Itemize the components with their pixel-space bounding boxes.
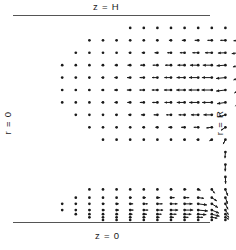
vector-arrowhead (224, 181, 227, 184)
vector-arrow (155, 51, 159, 54)
vector-base-dot (88, 203, 91, 206)
vector-arrow (210, 216, 217, 219)
axis-label-z-0: z = 0 (95, 231, 120, 241)
vector-arrowhead (187, 216, 189, 218)
vector-arrow (224, 163, 227, 171)
vector-arrowhead (117, 209, 119, 211)
vector-arrow (88, 64, 91, 67)
vector-arrow (129, 51, 132, 54)
vector-arrowhead (165, 64, 167, 66)
vector-arrow (177, 101, 186, 104)
vector-arrow (189, 76, 200, 79)
vector-arrow (74, 101, 77, 104)
vector-arrowhead (127, 89, 129, 91)
vector-base-dot (102, 188, 105, 191)
vector-arrow (142, 216, 145, 219)
vector-arrow (61, 209, 64, 212)
vector-arrowhead (114, 102, 116, 104)
vector-arrow (74, 213, 77, 216)
vector-base-dot (74, 64, 77, 67)
vector-base-dot (88, 213, 91, 216)
vector-base-dot (102, 39, 105, 42)
vector-arrow (216, 76, 227, 79)
vector-arrow (115, 114, 118, 117)
vector-arrow (88, 101, 91, 104)
vector-arrow (142, 138, 145, 141)
vector-base-dot (142, 188, 145, 191)
vector-arrow (142, 219, 145, 222)
vector-arrow (218, 51, 227, 54)
vector-arrow (153, 64, 159, 67)
vector-arrow (210, 209, 219, 214)
vector-base-dot (88, 188, 91, 191)
vector-arrow (203, 113, 213, 116)
vector-base-dot (102, 51, 105, 54)
vector-arrow (177, 76, 186, 79)
vector-base-dot (170, 219, 173, 222)
vector-arrow (102, 209, 105, 212)
vector-arrow (102, 219, 105, 222)
vector-arrow (115, 213, 118, 216)
vector-arrow (156, 138, 159, 141)
vector-arrowhead (180, 52, 182, 54)
vector-arrow (102, 114, 105, 117)
vector-arrowhead (174, 213, 176, 215)
vector-arrow (156, 203, 163, 206)
vector-arrow (197, 216, 203, 219)
vector-arrow (197, 209, 208, 212)
vector-arrow (61, 76, 64, 79)
vector-base-dot (197, 219, 200, 222)
vector-arrow (183, 209, 193, 212)
vector-arrow (142, 209, 148, 212)
vector-arrowhead (141, 114, 143, 116)
vector-arrow (88, 203, 91, 206)
vector-arrowhead (182, 39, 184, 41)
vector-arrowhead (160, 213, 162, 215)
vector-arrow (194, 126, 200, 129)
vector-arrow (129, 138, 132, 141)
vector-arrow (102, 188, 105, 191)
vector-base-dot (142, 138, 145, 141)
vector-base-dot (129, 219, 132, 222)
vector-arrowhead (127, 64, 129, 66)
vector-arrowhead (167, 52, 169, 54)
vector-arrow (209, 138, 213, 141)
vector-arrow (101, 76, 104, 79)
vector-base-dot (156, 188, 159, 191)
vector-arrow (88, 76, 91, 79)
vector-arrowhead (177, 101, 180, 104)
vector-arrowhead (140, 64, 142, 66)
vector-arrowhead (152, 89, 154, 91)
vector-base-dot (197, 27, 200, 30)
vector-arrowhead (191, 114, 194, 117)
vector-field-figure: z = H z = 0 r = 0 r = R (0, 0, 236, 250)
vector-arrow (165, 101, 173, 104)
vector-base-dot (115, 216, 118, 219)
vector-base-dot (156, 219, 159, 222)
vector-arrowhead (131, 213, 133, 215)
vector-arrowhead (190, 64, 193, 67)
vector-arrow (235, 101, 236, 106)
vector-arrow (170, 27, 173, 30)
vector-arrow (197, 188, 201, 191)
vector-arrowhead (140, 77, 142, 79)
vector-arrow (115, 219, 118, 222)
vector-arrow (129, 188, 132, 191)
vector-arrowhead (203, 213, 206, 216)
vector-base-dot (115, 219, 118, 222)
vector-arrow (142, 51, 145, 54)
vector-arrowhead (154, 114, 156, 116)
vector-base-dot (88, 101, 91, 104)
vector-arrow (114, 101, 118, 104)
vector-arrow (61, 203, 64, 206)
vector-arrowhead (202, 76, 205, 79)
vector-arrow (210, 27, 213, 30)
vector-base-dot (210, 27, 213, 30)
vector-arrow (170, 203, 178, 206)
vector-arrow (88, 216, 91, 219)
vector-arrowhead (224, 169, 227, 172)
vector-base-dot (183, 219, 186, 222)
vector-arrowhead (181, 126, 183, 128)
vector-base-dot (74, 89, 77, 92)
vector-arrow (129, 209, 134, 212)
